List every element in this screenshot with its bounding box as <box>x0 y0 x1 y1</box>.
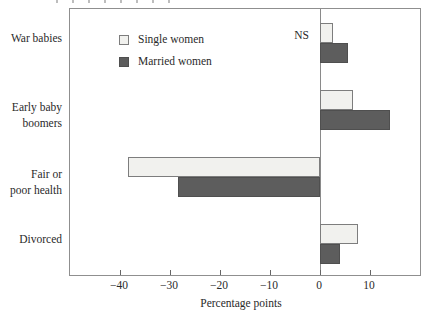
category-label-fair-or-poor-health: Fair orpoor health <box>0 166 62 198</box>
category-label-line: Divorced <box>0 231 62 247</box>
x-tick-label: −40 <box>99 279 139 292</box>
x-tick-mark <box>170 270 171 275</box>
legend-item-single-women: Single women <box>119 34 212 45</box>
bar-early-baby-boomers-married-women <box>320 110 390 130</box>
category-label-line: poor health <box>0 182 62 198</box>
legend: Single women Married women <box>119 34 212 78</box>
x-tick-label: −20 <box>199 279 239 292</box>
clipped-caption-fragment <box>56 0 178 3</box>
x-tick-mark <box>270 270 271 275</box>
x-tick-mark <box>220 270 221 275</box>
bar-fair-or-poor-health-married-women <box>178 177 321 197</box>
x-tick-label: 10 <box>349 279 389 292</box>
x-tick-label: 0 <box>299 279 339 292</box>
category-label-line: War babies <box>0 30 62 46</box>
legend-label-married-women: Married women <box>138 56 212 67</box>
figure-container: War babiesEarly babyboomersFair orpoor h… <box>0 0 430 323</box>
plot-area: Single women Married women NS <box>69 8 421 276</box>
bar-war-babies-married-women <box>320 43 348 63</box>
legend-label-single-women: Single women <box>138 34 204 45</box>
category-label-war-babies: War babies <box>0 30 62 46</box>
x-axis-label: Percentage points <box>91 297 391 309</box>
bar-divorced-single-women <box>320 224 358 244</box>
category-label-early-baby-boomers: Early babyboomers <box>0 99 62 131</box>
bar-divorced-married-women <box>320 244 340 264</box>
x-tick-label: −30 <box>149 279 189 292</box>
bar-fair-or-poor-health-single-women <box>128 157 321 177</box>
category-label-line: boomers <box>0 115 62 131</box>
x-tick-mark <box>370 270 371 275</box>
x-tick-mark <box>320 270 321 275</box>
bar-early-baby-boomers-single-women <box>320 90 353 110</box>
legend-item-married-women: Married women <box>119 56 212 67</box>
ns-annotation: NS <box>261 29 309 42</box>
category-label-line: Early baby <box>0 99 62 115</box>
bar-war-babies-single-women <box>320 23 333 43</box>
category-label-divorced: Divorced <box>0 231 62 247</box>
category-label-line: Fair or <box>0 166 62 182</box>
x-tick-mark <box>120 270 121 275</box>
single-women-swatch-icon <box>119 35 129 45</box>
married-women-swatch-icon <box>119 57 129 67</box>
x-tick-label: −10 <box>249 279 289 292</box>
